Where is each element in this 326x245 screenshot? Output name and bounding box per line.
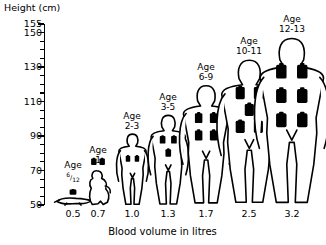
y-tick-label-130: 130 <box>2 62 42 72</box>
age-label: Age6-9 <box>197 62 214 82</box>
y-tick-100 <box>40 118 44 119</box>
x-axis-title: Blood volume in litres <box>0 226 325 237</box>
y-tick-label-70: 70 <box>2 166 42 176</box>
y-tick-105 <box>40 110 44 111</box>
y-tick-label-150: 150 <box>2 28 42 38</box>
y-tick-80 <box>40 153 44 154</box>
x-value-label-1.0: 1.0 <box>112 208 152 219</box>
y-tick-125 <box>40 75 44 76</box>
figure-column-age-12-13: Age12-13 <box>260 14 324 205</box>
y-tick-label-110: 110 <box>2 97 42 107</box>
x-value-label-1.7: 1.7 <box>186 208 226 219</box>
y-tick-145 <box>40 41 44 42</box>
y-tick-label-50: 50 <box>2 200 42 210</box>
age-label: Age12-13 <box>279 14 305 34</box>
y-tick-85 <box>40 144 44 145</box>
human-figure-icon <box>258 36 326 205</box>
y-tick-120 <box>40 84 44 85</box>
y-tick-label-155: 155 <box>2 19 42 29</box>
y-tick-label-90: 90 <box>2 131 42 141</box>
y-tick-135 <box>40 58 44 59</box>
y-axis-title: Height (cm) <box>4 2 60 13</box>
y-tick-140 <box>40 49 44 50</box>
y-tick-115 <box>40 92 44 93</box>
y-tick-95 <box>40 127 44 128</box>
x-value-label-3.2: 3.2 <box>272 208 312 219</box>
x-value-label-2.5: 2.5 <box>229 208 269 219</box>
x-value-label-1.3: 1.3 <box>148 208 188 219</box>
